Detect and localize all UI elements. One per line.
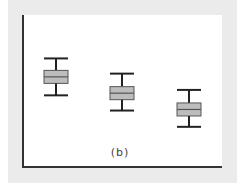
panel-caption: (b) [100,146,140,159]
box-3 [177,90,201,127]
y-axis [22,15,24,168]
box-1 [44,58,68,95]
x-axis [22,166,222,168]
box-2 [110,74,134,111]
